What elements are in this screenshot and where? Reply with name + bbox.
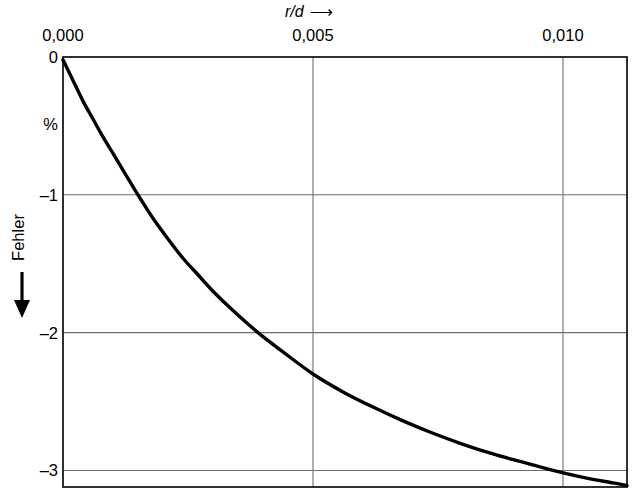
y-axis-arrow-icon bbox=[14, 272, 30, 318]
plot-frame bbox=[63, 57, 627, 487]
plot-area bbox=[0, 0, 638, 494]
data-curve bbox=[63, 60, 627, 486]
y-arrow-head bbox=[14, 300, 30, 318]
error-vs-ratio-chart: r/d⟶ 0,0000,0050,010 0–1–2–3 % Fehler bbox=[0, 0, 638, 494]
